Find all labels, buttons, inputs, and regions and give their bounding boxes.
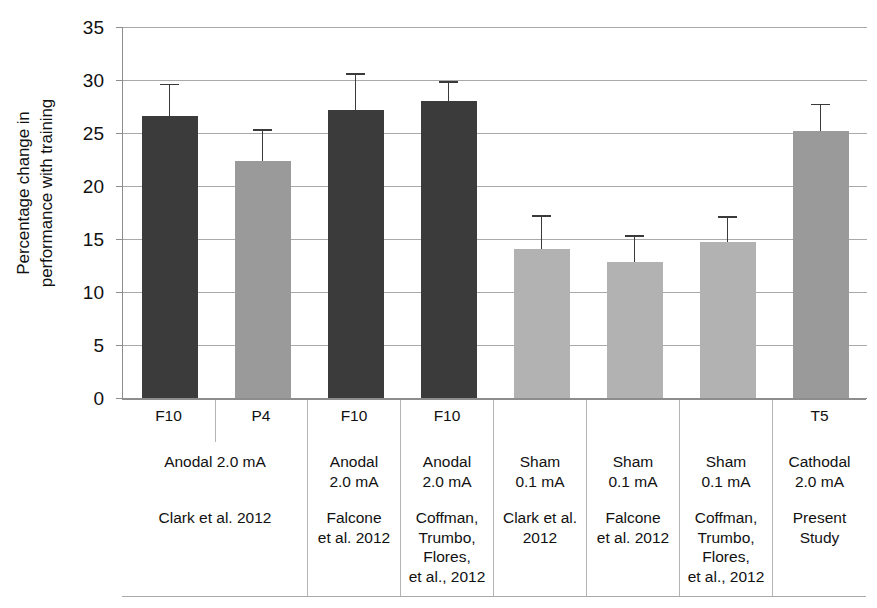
- label-column-8: T5Cathodal 2.0 mAPresent Study: [773, 400, 866, 596]
- x-axis-label-table: F10P4F10Anodal 2.0 mAFalcone et al. 2012…: [122, 399, 866, 597]
- electrode-label-2: P4: [215, 407, 307, 425]
- bar-series: [123, 27, 867, 398]
- citation-label-6: Falcone et al. 2012: [587, 508, 679, 547]
- label-column-5: Sham 0.1 mAClark et al. 2012: [494, 400, 587, 596]
- bar-group: [495, 27, 588, 398]
- y-tick-label-5: 5: [93, 336, 104, 355]
- y-tickmark-20: [116, 186, 123, 187]
- bar-4: [421, 101, 477, 398]
- condition-label-6: Sham 0.1 mA: [587, 452, 679, 491]
- error-bar-4: [448, 83, 450, 101]
- error-cap-1: [160, 84, 179, 86]
- y-tickmark-35: [116, 27, 123, 28]
- bar-6: [607, 262, 663, 398]
- electrode-label-8: T5: [773, 407, 866, 425]
- y-tickmark-5: [116, 345, 123, 346]
- condition-label-4: Anodal 2.0 mA: [401, 452, 493, 491]
- error-bar-3: [355, 75, 357, 110]
- bar-group: [402, 27, 495, 398]
- error-cap-8: [811, 104, 830, 106]
- y-tick-label-10: 10: [83, 283, 104, 302]
- y-axis-tick-labels: 05101520253035: [62, 0, 114, 400]
- bar-group: [309, 27, 402, 398]
- y-axis-title: Percentage change in performance with tr…: [12, 18, 58, 368]
- label-column-6: Sham 0.1 mAFalcone et al. 2012: [587, 400, 680, 596]
- y-tick-label-20: 20: [83, 177, 104, 196]
- y-tickmark-10: [116, 292, 123, 293]
- y-tickmark-15: [116, 239, 123, 240]
- citation-label-7: Coffman, Trumbo, Flores, et al., 2012: [680, 508, 772, 586]
- bar-group: [123, 27, 216, 398]
- error-bar-8: [820, 105, 822, 130]
- error-cap-4: [439, 81, 458, 83]
- electrode-label-4: F10: [401, 407, 493, 425]
- citation-label-5: Clark et al. 2012: [494, 508, 586, 547]
- bar-5: [514, 249, 570, 398]
- error-cap-2: [253, 129, 272, 131]
- citation-label-8: Present Study: [773, 508, 866, 547]
- label-column-1: F10: [122, 400, 215, 596]
- error-bar-5: [541, 217, 543, 249]
- error-cap-7: [718, 216, 737, 218]
- error-bar-2: [262, 131, 264, 161]
- label-column-3: F10Anodal 2.0 mAFalcone et al. 2012: [308, 400, 401, 596]
- citation-label-4: Coffman, Trumbo, Flores, et al., 2012: [401, 508, 493, 586]
- bar-chart-figure: Percentage change in performance with tr…: [0, 0, 877, 608]
- merged-condition-label: Anodal 2.0 mA: [122, 452, 308, 472]
- error-cap-6: [625, 235, 644, 237]
- label-column-2: P4: [215, 400, 308, 596]
- bar-2: [235, 161, 291, 398]
- plot-area: [122, 27, 867, 398]
- condition-label-5: Sham 0.1 mA: [494, 452, 586, 491]
- bar-7: [700, 242, 756, 398]
- bar-1: [142, 116, 198, 398]
- y-tick-label-25: 25: [83, 124, 104, 143]
- y-tick-label-35: 35: [83, 18, 104, 37]
- merged-citation-label: Clark et al. 2012: [122, 508, 308, 528]
- error-cap-3: [346, 73, 365, 75]
- error-cap-5: [532, 215, 551, 217]
- bar-group: [588, 27, 681, 398]
- bar-3: [328, 110, 384, 398]
- short-column-divider: [215, 400, 216, 442]
- y-tick-label-0: 0: [93, 389, 104, 408]
- bar-group: [216, 27, 309, 398]
- electrode-label-3: F10: [308, 407, 400, 425]
- condition-label-7: Sham 0.1 mA: [680, 452, 772, 491]
- bar-8: [793, 131, 849, 398]
- y-tick-label-15: 15: [83, 230, 104, 249]
- error-bar-6: [634, 237, 636, 262]
- label-column-7: Sham 0.1 mACoffman, Trumbo, Flores, et a…: [680, 400, 773, 596]
- y-axis-title-container: Percentage change in performance with tr…: [0, 0, 62, 400]
- citation-label-3: Falcone et al. 2012: [308, 508, 400, 547]
- bar-group: [681, 27, 774, 398]
- electrode-label-1: F10: [122, 407, 215, 425]
- y-tickmark-25: [116, 133, 123, 134]
- y-tick-label-30: 30: [83, 71, 104, 90]
- bar-group: [774, 27, 867, 398]
- condition-label-3: Anodal 2.0 mA: [308, 452, 400, 491]
- y-tickmark-30: [116, 80, 123, 81]
- error-bar-7: [727, 218, 729, 242]
- label-column-4: F10Anodal 2.0 mACoffman, Trumbo, Flores,…: [401, 400, 494, 596]
- error-bar-1: [169, 85, 171, 116]
- condition-label-8: Cathodal 2.0 mA: [773, 452, 866, 491]
